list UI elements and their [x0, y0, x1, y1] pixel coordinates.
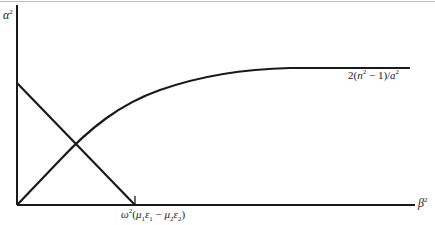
dispersion-diagram [0, 0, 435, 225]
x-intercept-label: ω2(μ1ε1 − μ2ε2) [121, 208, 185, 223]
omega-symbol: ω [121, 208, 129, 220]
saturating-curve [17, 68, 410, 205]
asymptote-mid: − 1)/ [366, 69, 390, 81]
asymptote-pre: 2( [348, 69, 357, 81]
x-axis-label: β2 [418, 197, 427, 209]
asymptote-exp2: 2 [396, 68, 400, 76]
asymptote-label: 2(n2 − 1)/a2 [348, 69, 399, 81]
minus-sign: − [153, 208, 165, 220]
x-axis-exponent: 2 [424, 196, 428, 204]
y-axis-exponent: 2 [9, 8, 13, 16]
paren-close: ) [181, 208, 185, 220]
y-axis-label: α2 [3, 9, 13, 21]
